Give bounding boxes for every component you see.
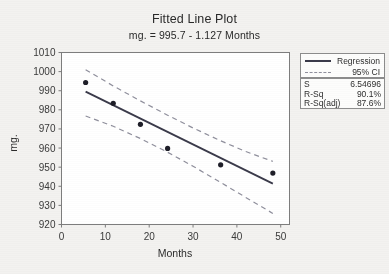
y-tick-label: 950 — [39, 162, 56, 173]
y-tick-label: 980 — [39, 104, 56, 115]
data-point — [218, 162, 223, 167]
x-tick-label: 10 — [100, 231, 112, 242]
data-point — [270, 170, 275, 175]
y-tick-label: 960 — [39, 143, 56, 154]
y-tick-label: 930 — [39, 200, 56, 211]
legend-box: Regression 95% CI — [300, 53, 385, 78]
x-axis-title: Months — [158, 247, 192, 259]
data-point — [111, 101, 116, 106]
x-axis-ticks: 01020304050 — [59, 225, 287, 242]
x-tick-label: 0 — [59, 231, 65, 242]
y-axis-title: mg. — [7, 134, 19, 152]
data-point — [165, 146, 170, 151]
y-tick-label: 990 — [39, 85, 56, 96]
legend-item-regression: Regression — [304, 56, 381, 66]
y-tick-label: 970 — [39, 123, 56, 134]
y-tick-label: 920 — [39, 219, 56, 230]
y-tick-label: 1010 — [33, 47, 56, 58]
stats-value-rsqadj: 87.6% — [357, 99, 381, 109]
data-point — [138, 122, 143, 127]
x-tick-label: 50 — [275, 231, 287, 242]
legend-item-ci: 95% CI — [304, 67, 381, 77]
stats-label-rsqadj: R-Sq(adj) — [304, 99, 340, 109]
y-axis-ticks: 92093094095096097098099010001010 — [33, 47, 61, 230]
y-tick-label: 1000 — [33, 66, 56, 77]
y-tick-label: 940 — [39, 181, 56, 192]
x-tick-label: 40 — [231, 231, 243, 242]
legend-label-ci: 95% CI — [332, 67, 381, 77]
x-tick-label: 20 — [144, 231, 156, 242]
legend-dashed-line-icon — [304, 67, 332, 77]
statistics-box: S 6.54696 R-Sq 90.1% R-Sq(adj) 87.6% — [300, 78, 385, 109]
data-point — [83, 80, 88, 85]
x-tick-label: 30 — [187, 231, 199, 242]
plot-canvas: 92093094095096097098099010001010 0102030… — [0, 0, 389, 274]
legend-solid-line-icon — [304, 56, 332, 66]
stats-row-rsqadj: R-Sq(adj) 87.6% — [304, 99, 381, 109]
legend-label-regression: Regression — [332, 56, 381, 66]
plot-frame — [62, 53, 290, 225]
fitted-line-plot-chart: Fitted Line Plot mg. = 995.7 - 1.127 Mon… — [0, 0, 389, 274]
